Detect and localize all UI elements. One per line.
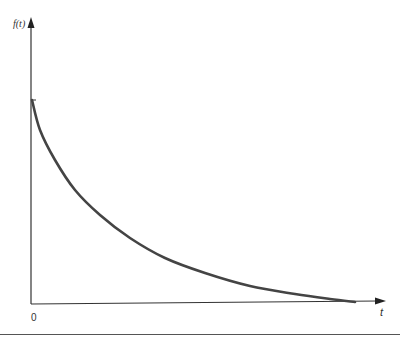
y-axis-label: f(t) [13,18,25,29]
origin-label: 0 [31,312,37,323]
x-axis-label: t [380,306,383,318]
y-axis-arrow-icon [28,17,35,28]
x-axis [31,301,378,304]
decay-curve [32,100,355,302]
bottom-divider [0,334,400,335]
x-axis-arrow-icon [375,298,386,305]
decay-chart [0,0,400,341]
